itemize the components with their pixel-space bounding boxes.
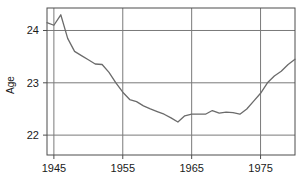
chart-container: 1945195519651975 222324 Age — [0, 0, 305, 184]
chart-background — [0, 0, 305, 184]
y-tick-label: 24 — [27, 24, 39, 36]
line-chart: 1945195519651975 222324 Age — [0, 0, 305, 184]
y-axis-title: Age — [5, 76, 16, 94]
x-tick-label: 1945 — [42, 162, 66, 174]
y-tick-label: 23 — [27, 77, 39, 89]
x-tick-label: 1975 — [248, 162, 272, 174]
x-tick-label: 1955 — [111, 162, 135, 174]
x-tick-label: 1965 — [179, 162, 203, 174]
y-tick-label: 22 — [27, 129, 39, 141]
